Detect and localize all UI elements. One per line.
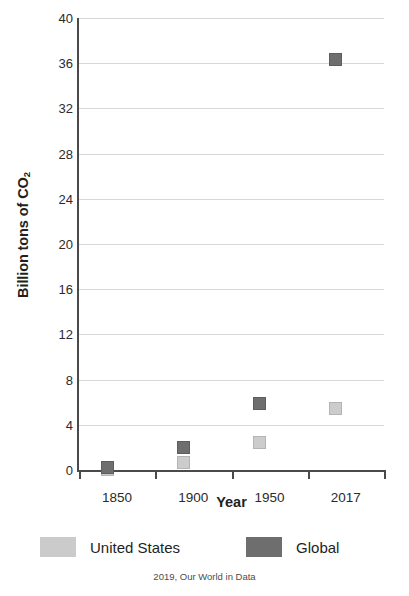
y-tick-label-8: 8 [39, 372, 73, 387]
y-axis-title-text: Billion tons of CO2 [15, 172, 31, 298]
data-point-global-1950 [253, 397, 266, 410]
y-tick-label-32: 32 [39, 101, 73, 116]
gridline-12 [79, 334, 384, 335]
y-tick-label-28: 28 [39, 146, 73, 161]
y-tick-label-0: 0 [39, 463, 73, 478]
x-tick-mark-4 [384, 470, 386, 479]
gridline-32 [79, 108, 384, 109]
y-axis-line [77, 18, 79, 471]
y-tick-label-40: 40 [39, 11, 73, 26]
y-tick-label-4: 4 [39, 417, 73, 432]
x-axis-line [77, 470, 384, 472]
gridline-28 [79, 154, 384, 155]
y-tick-label-16: 16 [39, 282, 73, 297]
data-point-us-1900 [177, 456, 190, 469]
y-axis-tick-labels: 0481216202428323640 [33, 18, 73, 470]
y-axis-title-subscript: 2 [21, 172, 32, 177]
y-axis-title-main: Billion tons of CO [15, 177, 31, 298]
gridline-40 [79, 18, 384, 19]
x-tick-mark-2 [232, 470, 234, 479]
legend-item-global: Global [246, 537, 339, 557]
x-tick-mark-3 [308, 470, 310, 479]
x-tick-mark-0 [79, 470, 81, 479]
y-tick-label-36: 36 [39, 56, 73, 71]
co2-emissions-scatter-chart: Billion tons of CO2 0481216202428323640 … [0, 0, 409, 596]
y-tick-label-20: 20 [39, 237, 73, 252]
data-point-global-1900 [177, 441, 190, 454]
gridline-20 [79, 244, 384, 245]
x-axis-title: Year [79, 494, 384, 510]
plot-area: 1850190019502017 [79, 18, 384, 470]
legend-swatch-global-icon [246, 537, 282, 557]
gridline-24 [79, 199, 384, 200]
chart-source-caption: 2019, Our World in Data [0, 571, 409, 582]
gridline-8 [79, 380, 384, 381]
gridline-4 [79, 425, 384, 426]
data-point-global-2017 [329, 53, 342, 66]
legend-swatch-united-states-icon [40, 537, 76, 557]
y-tick-label-24: 24 [39, 191, 73, 206]
y-tick-label-12: 12 [39, 327, 73, 342]
x-tick-mark-1 [155, 470, 157, 479]
data-point-global-1850 [101, 461, 114, 474]
legend-label-united-states: United States [90, 539, 180, 556]
chart-legend: United States Global [40, 534, 380, 560]
data-point-us-1950 [253, 436, 266, 449]
legend-label-global: Global [296, 539, 339, 556]
legend-item-united-states: United States [40, 537, 180, 557]
gridline-16 [79, 289, 384, 290]
data-point-us-2017 [329, 402, 342, 415]
